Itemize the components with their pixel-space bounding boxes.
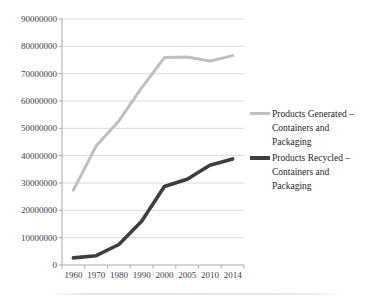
legend-item-products-recycled: Products Recycled – Containers and Packa… [250,151,372,193]
series-line-1 [73,159,232,258]
y-tick-label: 20000000 [21,205,58,215]
y-tick-label: 70000000 [21,69,58,79]
y-tick-label: 0 [53,260,58,270]
x-tick-label: 2014 [224,270,243,280]
series-line-0 [73,56,232,190]
x-tick-label: 2000 [155,270,174,280]
x-tick-label: 2005 [178,270,197,280]
y-tick-label: 50000000 [21,123,58,133]
legend-swatch-products-recycled [250,156,270,160]
legend-item-products-generated: Products Generated – Containers and Pack… [250,107,372,149]
y-tick-label: 60000000 [21,96,58,106]
x-tick-label: 1990 [133,270,152,280]
y-tick-label: 80000000 [21,41,58,51]
x-tick-label: 1970 [87,270,106,280]
y-tick-label: 30000000 [21,178,58,188]
chart-image: 0100000002000000030000000400000005000000… [0,0,379,298]
y-tick-label: 10000000 [21,233,58,243]
y-tick-label: 90000000 [21,14,58,24]
y-tick-label: 40000000 [21,151,58,161]
legend-swatch-products-generated [250,112,270,115]
legend-label-products-generated: Products Generated – Containers and Pack… [272,107,354,149]
x-tick-label: 1980 [110,270,129,280]
x-tick-label: 2010 [201,270,220,280]
legend-label-products-recycled: Products Recycled – Containers and Packa… [272,151,350,193]
chart-legend: Products Generated – Containers and Pack… [250,107,372,195]
x-tick-label: 1960 [64,270,83,280]
scan-artifact [45,293,344,295]
